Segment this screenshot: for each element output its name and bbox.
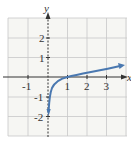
log-graph: -1 1 2 3 2 1 -1 -2 y x: [0, 0, 131, 146]
y-axis-label: y: [43, 2, 49, 14]
x-tick-1: 1: [65, 80, 71, 92]
x-axis-label: x: [126, 71, 131, 83]
y-tick-2: 2: [39, 32, 45, 44]
y-tick-1: 1: [39, 52, 45, 64]
y-tick-neg2: -2: [34, 111, 43, 123]
x-tick-neg1: -1: [22, 80, 31, 92]
y-tick-neg1: -1: [34, 91, 43, 103]
x-tick-3: 3: [104, 80, 110, 92]
x-tick-2: 2: [84, 80, 90, 92]
